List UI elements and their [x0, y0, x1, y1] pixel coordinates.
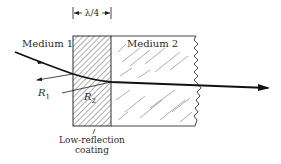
medium-2-block — [111, 36, 201, 126]
coating-label-line1: Low-reflection — [59, 135, 125, 145]
r1-label: R1 — [37, 87, 50, 101]
dimension-label: λ/4 — [85, 8, 100, 18]
quarter-wavelength-dimension: λ/4 — [73, 7, 111, 19]
medium-2-label: Medium 2 — [127, 38, 178, 49]
anti-reflection-coating-diagram: λ/4 R1 R2 M — [0, 0, 281, 164]
coating-label-line2: coating — [75, 145, 109, 155]
transmitted-ray-arrow-icon — [258, 84, 270, 91]
incident-ray — [15, 52, 268, 88]
medium-1-label: Medium 1 — [22, 38, 73, 49]
coating-pointer — [93, 129, 95, 134]
reflected-ray-r1 — [37, 74, 73, 80]
